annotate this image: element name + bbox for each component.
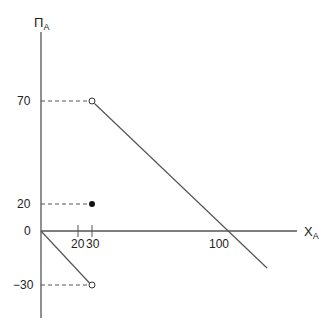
x-tick-label-20: 20 — [71, 238, 84, 250]
y-axis-label-main: Π — [34, 15, 43, 30]
open-point-neg30 — [89, 282, 95, 288]
chart: ΠA XA 70 20 0 −30 20 30 100 — [0, 0, 331, 331]
open-point-70 — [89, 98, 95, 104]
x-axis-label-sub: A — [313, 231, 319, 241]
y-axis-label: ΠA — [34, 16, 49, 34]
y-tick-label-0: 0 — [24, 225, 31, 237]
y-tick-label-neg30: −30 — [13, 279, 33, 291]
chart-plot — [0, 0, 331, 331]
y-tick-label-20: 20 — [17, 198, 30, 210]
y-tick-label-70: 70 — [17, 95, 30, 107]
x-axis-label: XA — [304, 225, 319, 243]
upper-segment — [95, 104, 268, 269]
filled-point-20 — [89, 201, 95, 207]
x-tick-label-30: 30 — [86, 238, 99, 250]
y-axis-label-sub: A — [43, 22, 49, 32]
x-tick-label-100: 100 — [209, 238, 229, 250]
x-axis-label-main: X — [304, 224, 313, 239]
